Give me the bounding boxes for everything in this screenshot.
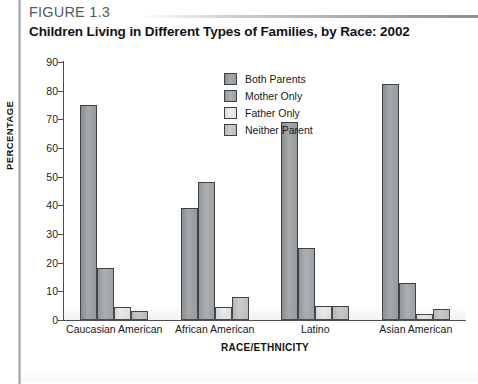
legend-swatch-icon <box>224 90 237 102</box>
bar[interactable] <box>131 311 148 320</box>
y-axis-tick <box>58 263 64 264</box>
y-axis-tick <box>58 177 64 178</box>
bar[interactable] <box>399 283 416 320</box>
y-axis-tick <box>58 320 64 321</box>
y-axis-tick-label: 70 <box>36 114 58 124</box>
y-axis-tick-label: 90 <box>36 57 58 67</box>
bar[interactable] <box>181 208 198 320</box>
legend-label: Both Parents <box>245 73 306 85</box>
bar[interactable] <box>416 314 433 320</box>
legend-label: Father Only <box>245 107 300 119</box>
y-axis-tick-label: 10 <box>36 286 58 296</box>
y-axis-tick <box>58 62 64 63</box>
figure-number: FIGURE 1.3 <box>29 4 110 20</box>
legend-item[interactable]: Neither Parent <box>224 121 313 138</box>
legend-swatch-icon <box>224 124 237 136</box>
legend-label: Mother Only <box>245 90 302 102</box>
bar-group <box>80 62 148 320</box>
bar[interactable] <box>80 105 97 320</box>
legend-item[interactable]: Father Only <box>224 104 313 121</box>
y-axis-tick <box>58 119 64 120</box>
chart-legend: Both ParentsMother OnlyFather OnlyNeithe… <box>224 70 313 138</box>
x-axis-line <box>63 320 466 321</box>
y-axis-tick <box>58 205 64 206</box>
y-axis-tick-label: 80 <box>36 86 58 96</box>
bar[interactable] <box>114 307 131 320</box>
bar[interactable] <box>298 248 315 320</box>
legend-label: Neither Parent <box>245 124 313 136</box>
y-axis-tick-label: 20 <box>36 258 58 268</box>
legend-item[interactable]: Mother Only <box>224 87 313 104</box>
x-axis-labels: Caucasian AmericanAfrican AmericanLatino… <box>64 323 466 339</box>
bar-group <box>382 62 450 320</box>
bar-chart: PERCENTAGE 0102030405060708090 Both Pare… <box>18 52 478 352</box>
x-axis-tick-label: African American <box>165 323 266 335</box>
bar[interactable] <box>97 268 114 320</box>
y-axis-tick <box>58 291 64 292</box>
legend-item[interactable]: Both Parents <box>224 70 313 87</box>
y-axis-title: PERCENTAGE <box>4 101 15 170</box>
x-axis-tick-label: Asian American <box>366 323 467 335</box>
bar[interactable] <box>433 309 450 320</box>
legend-swatch-icon <box>224 73 237 85</box>
y-axis-tick <box>58 234 64 235</box>
y-axis-tick-label: 60 <box>36 143 58 153</box>
plot-area: Both ParentsMother OnlyFather OnlyNeithe… <box>64 62 466 320</box>
header-divider <box>139 15 478 18</box>
y-axis-tick <box>58 148 64 149</box>
y-axis-tick-label: 30 <box>36 229 58 239</box>
y-axis-tick-label: 50 <box>36 172 58 182</box>
bar[interactable] <box>198 182 215 320</box>
page-bottom-shading <box>20 372 478 382</box>
bar[interactable] <box>232 297 249 320</box>
y-axis-tick-label: 0 <box>36 315 58 325</box>
x-axis-tick-label: Caucasian American <box>64 323 165 335</box>
bar[interactable] <box>281 122 298 320</box>
y-axis-tick <box>58 91 64 92</box>
x-axis-title: RACE/ETHNICITY <box>64 342 466 353</box>
bar[interactable] <box>215 307 232 320</box>
legend-swatch-icon <box>224 107 237 119</box>
y-axis-line <box>63 61 64 321</box>
bar[interactable] <box>382 84 399 321</box>
x-axis-tick-label: Latino <box>265 323 366 335</box>
bar[interactable] <box>315 306 332 320</box>
y-axis-tick-label: 40 <box>36 200 58 210</box>
figure-header: FIGURE 1.3 <box>29 4 478 24</box>
bar[interactable] <box>332 306 349 320</box>
y-axis-labels: 0102030405060708090 <box>32 62 58 320</box>
figure-title: Children Living in Different Types of Fa… <box>29 24 474 39</box>
